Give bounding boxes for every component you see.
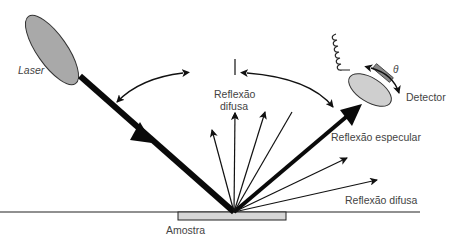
diffuse-top-label-line1: Reflexão bbox=[214, 88, 255, 100]
detector-label: Detector bbox=[406, 91, 446, 103]
incident-beam bbox=[80, 76, 234, 212]
theta-label: θ bbox=[393, 64, 398, 76]
sample-label: Amostra bbox=[166, 224, 205, 236]
specular-beam-arrow-icon bbox=[340, 104, 362, 126]
diffuse-top-label-line2: difusa bbox=[220, 100, 248, 112]
laser-label: Laser bbox=[18, 64, 44, 76]
reflection-angle-arc bbox=[247, 73, 333, 107]
detector-cable-icon bbox=[332, 34, 350, 70]
specular-label: Reflexão especular bbox=[331, 131, 421, 143]
incidence-angle-arc bbox=[117, 73, 183, 102]
specular-beam bbox=[234, 112, 352, 212]
diffuse-right-label: Reflexão difusa bbox=[345, 194, 417, 206]
laser-ellipse bbox=[16, 8, 88, 92]
